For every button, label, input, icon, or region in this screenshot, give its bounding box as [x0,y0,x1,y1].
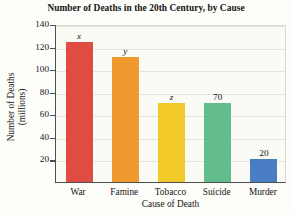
bar-war [66,42,93,182]
x-axis-tick-label-murder: Murder [235,187,291,197]
y-axis-tick-label: 60 [21,109,49,119]
chart-title: Number of Deaths in the 20th Century, by… [0,3,292,13]
y-axis-tick-label: 140 [21,19,49,29]
y-axis-tick [50,25,56,26]
y-axis-tick-label: 120 [21,42,49,52]
y-axis-tick [50,115,56,116]
y-axis-tick [50,93,56,94]
y-axis-label-line1: Number of Deaths [6,73,16,142]
y-axis-label-line2: (millions) [17,43,28,171]
y-axis-tick [50,160,56,161]
bar-value-label-war: x [59,31,99,41]
bar-tobacco [158,103,185,182]
y-axis-tick [50,48,56,49]
y-axis-tick [50,70,56,71]
y-axis-tick-label: 20 [21,154,49,164]
bar-suicide [204,103,231,182]
bar-value-label-suicide: 70 [198,92,238,102]
bar-chart-figure: Number of Deaths in the 20th Century, by… [0,0,292,214]
y-axis-tick-label: 40 [21,132,49,142]
y-axis-tick-label: 80 [21,87,49,97]
x-axis-label: Cause of Death [55,199,286,209]
bar-famine [112,57,139,182]
plot-area: xyz7020 [55,25,286,183]
y-axis-tick-label: 100 [21,64,49,74]
y-axis-tick [50,138,56,139]
bar-murder [250,159,277,182]
bar-value-label-famine: y [105,46,145,56]
gridline [56,26,285,27]
y-axis-label: Number of Deaths (millions) [2,42,32,172]
bar-value-label-tobacco: z [152,92,192,102]
bar-value-label-murder: 20 [244,148,284,158]
